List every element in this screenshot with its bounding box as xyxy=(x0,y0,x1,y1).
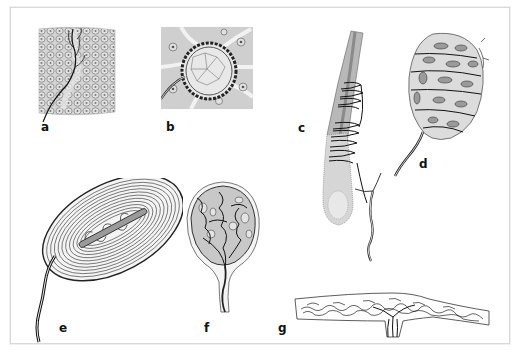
panel-label-f: f xyxy=(204,322,209,334)
panel-label-d: d xyxy=(419,158,428,170)
panel-b-illustration xyxy=(161,27,253,109)
panel-label-b: b xyxy=(166,121,175,133)
panel-label-e: e xyxy=(59,322,67,334)
panel-g-illustration xyxy=(293,291,493,343)
panel-c-illustration xyxy=(311,23,401,263)
figure-frame: a b xyxy=(10,7,510,344)
panel-e-illustration xyxy=(23,178,183,343)
panel-label-a: a xyxy=(41,121,49,133)
panel-label-c: c xyxy=(298,122,305,134)
panel-f-illustration xyxy=(183,178,263,313)
panel-label-g: g xyxy=(278,322,287,334)
panel-a-illustration xyxy=(37,27,117,122)
panel-d-illustration xyxy=(393,28,493,178)
